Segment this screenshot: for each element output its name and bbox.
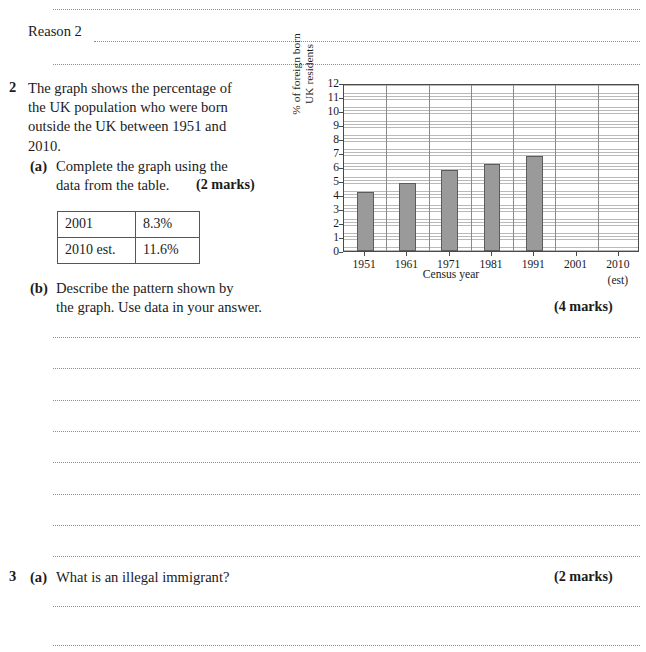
y-axis-tick-10: 10 — [321, 107, 339, 117]
table-cell-year: 2001 — [58, 212, 136, 238]
x-tick-mark — [618, 252, 619, 256]
x-tick-mark — [533, 252, 534, 256]
answer-line — [53, 494, 640, 495]
y-axis-tick-9: 9 — [321, 121, 339, 131]
y-axis-tick-3: 3 — [321, 205, 339, 215]
category-separator — [471, 85, 472, 251]
x-axis-tick-2001: 2001 — [554, 258, 598, 271]
foreign-born-bar-chart: % of foreign born UK residents Census ye… — [296, 74, 646, 289]
y-axis-tick-11: 11 — [321, 93, 339, 103]
bar-1951 — [357, 192, 374, 251]
y-axis-tick-12: 12 — [321, 79, 339, 89]
question-3a-marks: (2 marks) — [554, 568, 613, 585]
x-tick-mark — [491, 252, 492, 256]
answer-line — [53, 645, 640, 646]
worksheet-page: Reason 2 2 The graph shows the percentag… — [0, 0, 646, 652]
bar-1991 — [526, 156, 543, 251]
x-axis-tick-1951: 1951 — [342, 258, 386, 271]
census-data-table: 2001 8.3% 2010 est. 11.6% — [57, 211, 200, 264]
chart-y-axis-title: % of foreign born UK residents — [290, 14, 316, 134]
question-3a-label: (a) — [30, 568, 47, 587]
answer-line — [53, 337, 640, 338]
y-axis-tick-8: 8 — [321, 135, 339, 145]
question-2-number: 2 — [9, 79, 16, 96]
x-tick-mark — [576, 252, 577, 256]
table-row: 2010 est. 11.6% — [58, 238, 200, 264]
y-axis-tick-7: 7 — [321, 149, 339, 159]
y-axis-title-line2: UK residents — [303, 44, 315, 104]
table-row: 2001 8.3% — [58, 212, 200, 238]
question-2b-marks: (4 marks) — [554, 298, 613, 315]
x-axis-tick-2010: 2010 — [596, 258, 640, 271]
answer-line — [53, 462, 640, 463]
y-axis-tick-1: 1 — [321, 233, 339, 243]
answer-line — [53, 368, 640, 369]
bar-1971 — [441, 170, 458, 251]
x-axis-tick-1961: 1961 — [384, 258, 428, 271]
answer-line — [53, 64, 640, 65]
category-separator — [555, 85, 556, 251]
answer-line — [53, 400, 640, 401]
y-tick-mark — [339, 252, 343, 253]
question-2b-text: Describe the pattern shown by the graph.… — [56, 279, 306, 317]
question-3a-text: What is an illegal immigrant? — [56, 568, 229, 587]
y-axis-tick-6: 6 — [321, 163, 339, 173]
x-tick-mark — [406, 252, 407, 256]
answer-line — [53, 525, 640, 526]
answer-line — [53, 431, 640, 432]
x-axis-tick-1981: 1981 — [469, 258, 513, 271]
y-axis-title-line1: % of foreign born — [290, 33, 302, 114]
answer-line — [53, 556, 640, 557]
y-axis-tick-2: 2 — [321, 219, 339, 229]
question-2-stem: The graph shows the percentage of the UK… — [28, 79, 288, 156]
table-cell-percent: 11.6% — [136, 238, 200, 264]
y-axis-tick-0: 0 — [321, 247, 339, 257]
chart-plot-area — [343, 84, 639, 252]
bar-1961 — [399, 183, 416, 251]
table-cell-year: 2010 est. — [58, 238, 136, 264]
category-separator — [598, 85, 599, 251]
question-2b-label: (b) — [30, 279, 48, 298]
question-2a-marks: (2 marks) — [196, 176, 255, 193]
x-axis-tick-1971: 1971 — [427, 258, 471, 271]
answer-line — [94, 41, 640, 42]
question-3-number: 3 — [9, 568, 16, 585]
x-tick-mark — [449, 252, 450, 256]
bar-1981 — [484, 164, 501, 251]
table-cell-percent: 8.3% — [136, 212, 200, 238]
category-separator — [429, 85, 430, 251]
y-axis-tick-5: 5 — [321, 177, 339, 187]
category-separator — [513, 85, 514, 251]
reason-2-label: Reason 2 — [28, 22, 82, 41]
y-axis-tick-4: 4 — [321, 191, 339, 201]
x-axis-tick-1991: 1991 — [511, 258, 555, 271]
category-separator — [386, 85, 387, 251]
question-2a-label: (a) — [30, 157, 47, 176]
answer-line — [53, 606, 640, 607]
x-axis-sublabel-2010: (est) — [596, 274, 640, 287]
x-tick-mark — [364, 252, 365, 256]
answer-line — [53, 9, 640, 10]
